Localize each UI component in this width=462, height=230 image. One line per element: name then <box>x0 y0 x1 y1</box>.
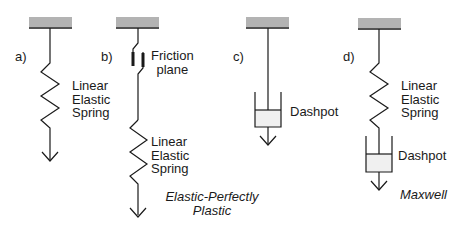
spring-label-line: Linear <box>151 135 189 149</box>
spring-label-line: Elastic <box>72 93 110 107</box>
panel-a-drawing <box>29 17 72 161</box>
panel-b-drawing <box>116 17 159 217</box>
spring-label-b: Linear Elastic Spring <box>151 135 189 176</box>
spring-label-line: Elastic <box>401 93 439 107</box>
friction-label-line: plane <box>151 63 194 77</box>
dashpot-label-c: Dashpot <box>290 105 338 118</box>
spring-d <box>370 29 388 154</box>
dashpot-label-d: Dashpot <box>398 149 446 162</box>
ceiling-c <box>246 17 289 27</box>
ceiling-d <box>358 18 401 28</box>
model-name-line: Elastic-Perfectly <box>163 190 261 204</box>
spring-a <box>41 28 59 160</box>
panel-d-drawing <box>358 18 401 190</box>
model-name-elastic-perfectly-plastic: Elastic-Perfectly Plastic <box>163 190 261 217</box>
ceiling-b <box>116 17 159 27</box>
friction-plane-label: Friction plane <box>151 49 194 76</box>
panel-label-d: d) <box>343 50 355 63</box>
spring-label-line: Spring <box>151 162 189 176</box>
panel-label-c: c) <box>233 50 244 63</box>
spring-b <box>130 120 147 215</box>
panel-c-drawing <box>246 17 289 145</box>
dashpot-fluid-c <box>255 110 281 127</box>
spring-label-line: Elastic <box>151 149 189 163</box>
spring-label-line: Spring <box>401 106 439 120</box>
friction-plate-left <box>132 52 135 66</box>
spring-label-line: Spring <box>72 106 110 120</box>
spring-label-line: Linear <box>72 79 110 93</box>
ceiling-a <box>29 17 72 27</box>
dashpot-fluid-d <box>366 154 392 172</box>
model-name-maxwell: Maxwell <box>400 188 447 201</box>
friction-upper-link <box>133 28 138 53</box>
spring-label-d: Linear Elastic Spring <box>401 79 439 120</box>
model-name-line: Plastic <box>163 204 261 218</box>
friction-label-line: Friction <box>151 49 194 63</box>
panel-label-a: a) <box>15 50 27 63</box>
spring-label-line: Linear <box>401 79 439 93</box>
spring-label-a: Linear Elastic Spring <box>72 79 110 120</box>
panel-label-b: b) <box>101 50 113 63</box>
